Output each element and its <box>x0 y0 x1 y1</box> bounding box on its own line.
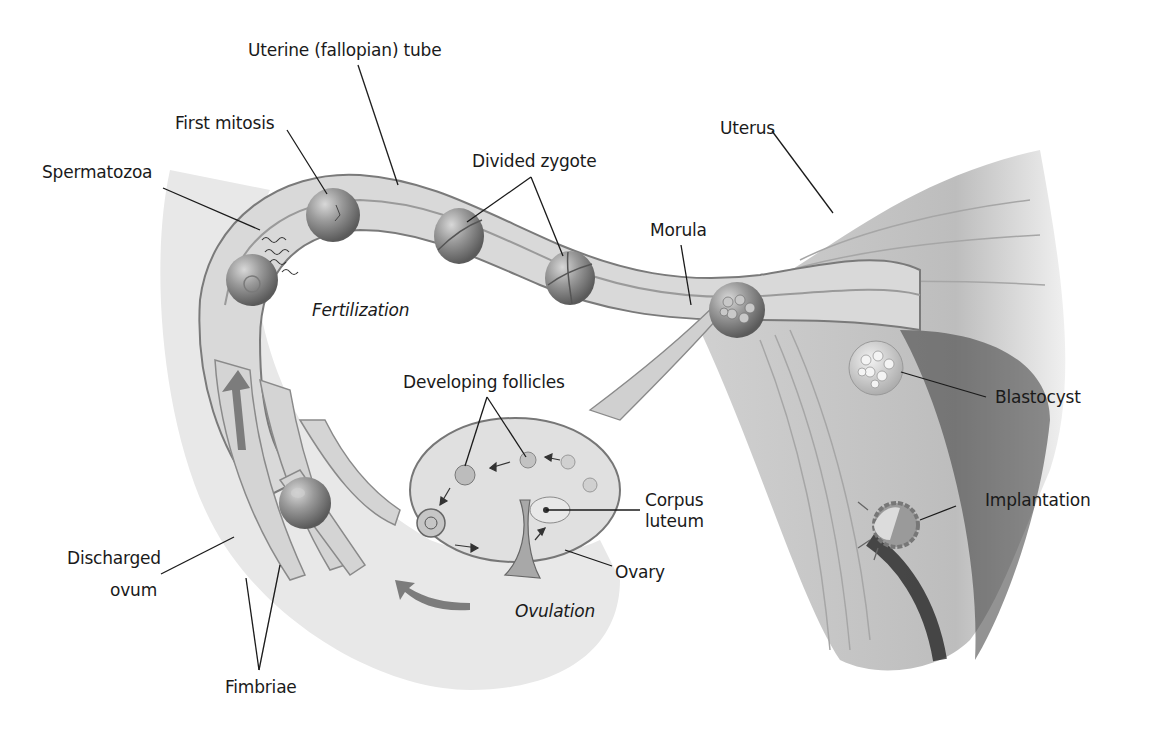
discharged-ovum-cell <box>279 477 331 529</box>
label-divided-zygote: Divided zygote <box>472 151 597 171</box>
label-uterus: Uterus <box>720 118 775 138</box>
label-blastocyst: Blastocyst <box>995 387 1081 407</box>
label-fimbriae: Fimbriae <box>225 677 297 697</box>
label-morula: Morula <box>650 220 707 240</box>
uterus-body <box>700 150 1065 670</box>
morula-cell <box>709 282 765 338</box>
label-spermatozoa: Spermatozoa <box>42 162 152 182</box>
label-corpus-luteum-line1: Corpus <box>645 490 703 510</box>
label-fertilization: Fertilization <box>312 300 409 320</box>
label-discharged-ovum-line1: Discharged <box>67 548 157 568</box>
label-corpus-luteum-line2: luteum <box>645 511 704 531</box>
label-ovulation: Ovulation <box>515 601 595 621</box>
first-mitosis-cell <box>306 188 360 242</box>
divided-zygote-two-cell <box>434 208 484 264</box>
label-discharged-ovum-line2: ovum <box>67 580 157 600</box>
ovary-structure <box>410 300 725 578</box>
blastocyst-cell <box>849 341 903 395</box>
label-implantation: Implantation <box>985 490 1091 510</box>
label-developing-follicles: Developing follicles <box>403 372 565 392</box>
reproductive-tract-illustration <box>0 0 1149 737</box>
label-ovary: Ovary <box>615 562 665 582</box>
label-uterine-tube: Uterine (fallopian) tube <box>248 40 441 60</box>
label-first-mitosis: First mitosis <box>175 113 274 133</box>
divided-zygote-four-cell <box>545 251 595 305</box>
